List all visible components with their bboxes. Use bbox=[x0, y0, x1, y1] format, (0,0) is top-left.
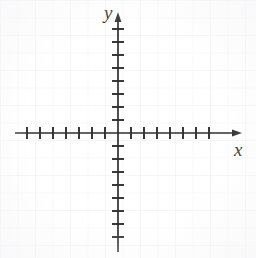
coordinate-plane-figure: y x bbox=[0, 0, 256, 258]
y-axis-label: y bbox=[104, 3, 112, 22]
axis-arrowheads bbox=[115, 12, 242, 136]
x-axis-label: x bbox=[234, 140, 242, 159]
axis-lines bbox=[15, 16, 238, 252]
x-axis-arrowhead bbox=[232, 130, 242, 137]
axes-and-ticks bbox=[0, 0, 256, 258]
y-axis-arrowhead bbox=[115, 12, 122, 22]
